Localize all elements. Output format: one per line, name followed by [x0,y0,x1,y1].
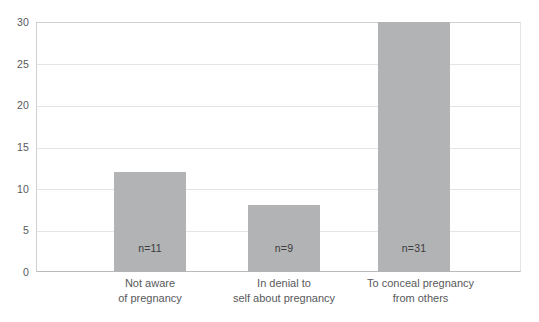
bar-in-denial-to-self[interactable]: n=9 [248,22,320,272]
bar-label-3: n=31 [378,243,450,254]
x-category-1-line2: of pregnancy [80,291,220,306]
x-category-1: Not aware of pregnancy [80,276,220,306]
bar-rect-1[interactable] [114,172,186,272]
x-category-2-line2: self about pregnancy [209,291,359,306]
bar-label-1: n=11 [114,243,186,254]
x-category-3-line1: To conceal pregnancy [348,276,493,291]
bar-label-2: n=9 [248,243,320,254]
figure-caption-sliver [0,0,539,9]
x-category-2-line1: In denial to [209,276,359,291]
x-category-1-line1: Not aware [80,276,220,291]
y-tick-0: 0 [23,267,29,277]
x-category-2: In denial to self about pregnancy [209,276,359,306]
bar-not-aware-of-pregnancy[interactable]: n=11 [114,22,186,272]
x-axis: Not aware of pregnancy In denial to self… [36,276,521,322]
y-tick-10: 10 [17,184,29,194]
x-category-3: To conceal pregnancy from others [348,276,493,306]
y-tick-30: 30 [17,17,29,27]
bars-layer: n=11 n=9 n=31 [36,22,521,272]
bar-rect-2[interactable] [248,205,320,272]
bar-to-conceal-pregnancy[interactable]: n=31 [378,22,450,272]
bar-chart-figure: 30 25 20 15 10 5 0 n=11 n=9 n=31 [0,0,539,322]
y-axis: 30 25 20 15 10 5 0 [0,0,36,322]
y-tick-5: 5 [23,225,29,235]
bar-rect-3[interactable] [378,22,450,272]
y-tick-15: 15 [17,142,29,152]
y-tick-25: 25 [17,59,29,69]
x-category-3-line2: from others [348,291,493,306]
y-tick-20: 20 [17,100,29,110]
